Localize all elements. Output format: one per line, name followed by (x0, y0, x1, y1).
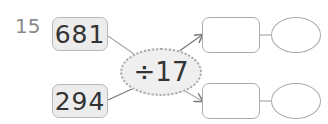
input-number-top: 681 (52, 17, 108, 51)
operation-oval: ÷17 (120, 48, 202, 96)
answer-box-bottom[interactable] (202, 83, 260, 119)
problem-number: 15 (15, 14, 40, 38)
input-number-bottom: 294 (52, 84, 108, 118)
answer-circle-top[interactable] (271, 17, 321, 53)
answer-box-top[interactable] (202, 17, 260, 53)
answer-circle-bottom[interactable] (271, 83, 321, 119)
